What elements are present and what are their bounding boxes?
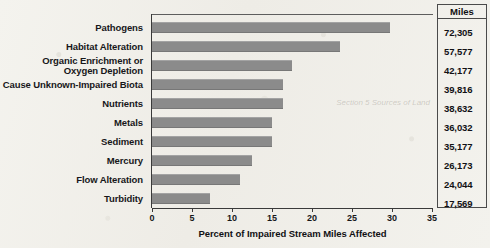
plot-top-rule [151, 14, 433, 15]
miles-value: 72,305 [438, 23, 486, 42]
x-axis-tick-label: 25 [347, 213, 357, 223]
x-axis-tick-label: 15 [267, 213, 277, 223]
bar [152, 174, 240, 185]
miles-value: 57,577 [438, 42, 486, 61]
category-label: Cause Unknown-Impaired Biota [0, 75, 148, 94]
x-axis-tick [152, 208, 153, 212]
bar-row [152, 94, 432, 113]
plot-area [152, 18, 432, 208]
bar [152, 41, 340, 52]
miles-column: Miles 72,30557,57742,17739,81638,63236,0… [437, 4, 487, 208]
x-axis-tick-label: 10 [227, 213, 237, 223]
bar [152, 22, 390, 33]
bar [152, 98, 283, 109]
bar [152, 117, 272, 128]
bar-row [152, 75, 432, 94]
x-axis-tick [352, 208, 353, 212]
x-axis-tick [272, 208, 273, 212]
x-axis-tick-label: 5 [189, 213, 194, 223]
bar-row [152, 18, 432, 37]
x-axis-title: Percent of Impaired Stream Miles Affecte… [152, 228, 433, 239]
bar-row [152, 37, 432, 56]
miles-value: 36,032 [438, 118, 486, 137]
x-axis-tick-label: 0 [149, 213, 154, 223]
bar [152, 79, 283, 90]
miles-value: 26,173 [438, 156, 486, 175]
bar [152, 155, 252, 166]
x-axis-tick-label: 30 [387, 213, 397, 223]
impaired-stream-miles-bar-chart: PathogensHabitat AlterationOrganic Enric… [0, 0, 490, 248]
x-axis-tick [192, 208, 193, 212]
miles-value: 42,177 [438, 61, 486, 80]
bar-row [152, 189, 432, 208]
category-label: Pathogens [0, 18, 148, 37]
category-axis-labels: PathogensHabitat AlterationOrganic Enric… [0, 18, 148, 208]
miles-value: 35,177 [438, 137, 486, 156]
category-label: Metals [0, 113, 148, 132]
x-axis: 05101520253035 [152, 208, 433, 209]
bar-row [152, 113, 432, 132]
miles-value: 39,816 [438, 80, 486, 99]
bar-row [152, 56, 432, 75]
category-label: Habitat Alteration [0, 37, 148, 56]
bar-row [152, 151, 432, 170]
category-label: Flow Alteration [0, 170, 148, 189]
miles-value: 38,632 [438, 99, 486, 118]
x-axis-tick [432, 208, 433, 212]
bar [152, 136, 272, 147]
category-label: Mercury [0, 151, 148, 170]
x-axis-tick [392, 208, 393, 212]
x-axis-tick [232, 208, 233, 212]
x-axis-tick-label: 20 [307, 213, 317, 223]
x-axis-tick [312, 208, 313, 212]
bar [152, 60, 292, 71]
miles-value: 17,569 [438, 194, 486, 213]
miles-value: 24,044 [438, 175, 486, 194]
miles-values-list: 72,30557,57742,17739,81638,63236,03235,1… [438, 19, 486, 213]
category-label: Organic Enrichment or Oxygen Depletion [0, 56, 148, 75]
x-axis-tick-label: 35 [427, 213, 437, 223]
category-label: Nutrients [0, 94, 148, 113]
bar-row [152, 132, 432, 151]
bars-container [152, 18, 432, 208]
y-axis-line [151, 14, 152, 208]
miles-column-header: Miles [438, 5, 486, 19]
category-label: Sediment [0, 132, 148, 151]
bar-row [152, 170, 432, 189]
category-label: Turbidity [0, 189, 148, 208]
bar [152, 193, 210, 204]
